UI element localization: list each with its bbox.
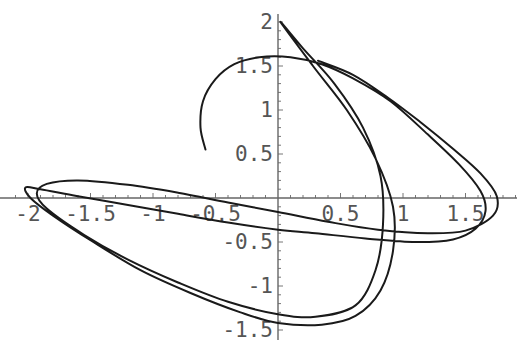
x-tick-label: -1 — [140, 202, 165, 226]
y-tick-label: -0.5 — [222, 230, 273, 254]
y-tick-label: 2 — [260, 10, 273, 34]
y-tick-label: -1.5 — [222, 318, 273, 342]
y-tick-label: 0.5 — [235, 142, 273, 166]
x-tick-label: 1 — [397, 202, 410, 226]
parametric-plot: -2-1.5-1-0.50.511.521.510.5-0.5-1-1.5 — [0, 0, 517, 353]
x-tick-label: 1.5 — [447, 202, 485, 226]
x-tick-label: -1.5 — [65, 202, 116, 226]
y-tick-label: 1 — [260, 98, 273, 122]
x-tick-label: -2 — [15, 202, 40, 226]
x-tick-label: -0.5 — [190, 202, 241, 226]
y-tick-label: -1 — [248, 274, 273, 298]
